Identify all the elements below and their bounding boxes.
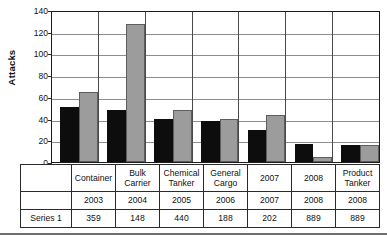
- bar-series1: [60, 107, 79, 162]
- bar-series1: [341, 145, 360, 162]
- year-cell: 2008: [292, 192, 336, 210]
- bar-group: [286, 12, 333, 162]
- y-tick-100: 100: [22, 50, 48, 59]
- year-cell: 2007: [248, 192, 292, 210]
- bar-chart: Attacks 140 120 100 80 60 40 20 0: [0, 0, 387, 168]
- series1-cell: 359: [72, 210, 116, 228]
- series1-cell: 202: [248, 210, 292, 228]
- series1-cell: 440: [160, 210, 204, 228]
- bar-series2: [313, 157, 332, 162]
- table-row-categories: ContainerBulk CarrierChemical TankerGene…: [21, 165, 380, 192]
- table-row-years: 2003200420052006200720082008: [21, 192, 380, 210]
- series1-cell: 889: [336, 210, 380, 228]
- category-cell: Chemical Tanker: [160, 165, 204, 192]
- bar-pair: [52, 12, 98, 162]
- category-cell: Bulk Carrier: [116, 165, 160, 192]
- data-table: ContainerBulk CarrierChemical TankerGene…: [20, 164, 380, 228]
- bar-pair: [333, 12, 379, 162]
- bar-series2: [360, 145, 379, 162]
- y-tick-120: 120: [22, 29, 48, 38]
- bar-series1: [295, 144, 314, 162]
- y-axis-label: Attacks: [6, 33, 17, 103]
- year-row-header: [21, 192, 72, 210]
- bar-series2: [220, 119, 239, 162]
- category-row-header: [21, 165, 72, 192]
- bar-pair: [193, 12, 239, 162]
- y-tick-20: 20: [22, 137, 48, 146]
- year-cell: 2005: [160, 192, 204, 210]
- bar-series2: [126, 24, 145, 162]
- category-cell: Product Tanker: [336, 165, 380, 192]
- bar-group: [193, 12, 240, 162]
- y-tick-140: 140: [22, 7, 48, 16]
- bar-group: [239, 12, 286, 162]
- y-tick-80: 80: [22, 72, 48, 81]
- series-row-header: Series 1: [21, 210, 72, 228]
- bar-series2: [173, 110, 192, 163]
- series1-cell: 148: [116, 210, 160, 228]
- series1-cell: 889: [292, 210, 336, 228]
- chart-figure: Attacks 140 120 100 80 60 40 20 0: [0, 0, 387, 239]
- table-row-series1: Series 1 359148440188202889889: [21, 210, 380, 228]
- plot-area: [51, 11, 380, 163]
- year-cell: 2006: [204, 192, 248, 210]
- bar-pair: [146, 12, 192, 162]
- bar-series1: [107, 110, 126, 163]
- bar-pair: [99, 12, 145, 162]
- y-tick-40: 40: [22, 116, 48, 125]
- y-axis-ticks: 140 120 100 80 60 40 20 0: [22, 5, 48, 165]
- bottom-divider: [0, 233, 387, 235]
- year-cell: 2004: [116, 192, 160, 210]
- y-tick-60: 60: [22, 94, 48, 103]
- bar-group: [52, 12, 99, 162]
- category-cell: 2007: [248, 165, 292, 192]
- bar-series2: [266, 115, 285, 162]
- bar-series1: [248, 130, 267, 162]
- bar-group: [99, 12, 146, 162]
- bar-series2: [79, 92, 98, 162]
- bar-series1: [154, 119, 173, 162]
- category-cell: 2008: [292, 165, 336, 192]
- bar-groups: [52, 12, 379, 162]
- bar-group: [333, 12, 379, 162]
- year-cell: 2008: [336, 192, 380, 210]
- category-cell: General Cargo: [204, 165, 248, 192]
- bar-pair: [286, 12, 332, 162]
- bar-series1: [201, 121, 220, 162]
- category-cell: Container: [72, 165, 116, 192]
- year-cell: 2003: [72, 192, 116, 210]
- bar-pair: [239, 12, 285, 162]
- bar-group: [146, 12, 193, 162]
- series1-cell: 188: [204, 210, 248, 228]
